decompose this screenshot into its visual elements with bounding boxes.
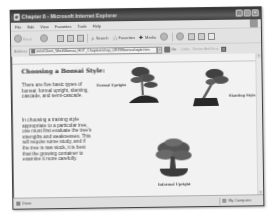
status-bar: Done My Computer [13,194,263,208]
bonsai-informal-upright-image [151,138,196,181]
vertical-scrollbar[interactable]: ▲ ▼ [255,53,263,195]
page-done-icon [16,202,20,206]
maximize-button[interactable]: □ [244,9,251,16]
address-input[interactable]: ents\Client_Work\Bonsai_HOT_Chapters\cha… [29,46,157,55]
close-button[interactable]: × [252,9,259,16]
messenger-icon[interactable] [208,32,215,39]
intro-paragraph: There are five basic types of bonsai: fo… [22,82,92,100]
status-text: Done [22,201,31,205]
minimize-button[interactable]: _ [236,10,243,17]
ie-icon: e [14,13,20,20]
back-label: Back [23,36,32,41]
links-button[interactable]: Links [181,47,189,51]
media-button[interactable]: ✦ Media [138,33,156,40]
address-url: ents\Client_Work\Bonsai_HOT_Chapters\cha… [36,48,149,54]
mail-icon[interactable] [176,32,184,40]
favorites-button[interactable]: ☆ Favorites [112,34,136,41]
norton-icon[interactable] [221,46,226,51]
back-arrow-icon [14,35,22,43]
zone-text: My Computer [228,198,251,202]
search-label: Search [96,35,109,40]
computer-icon [222,199,226,203]
bonsai-formal-upright-image [124,65,165,106]
informal-upright-label: Informal Upright [158,182,191,186]
toolbar-separator [87,33,88,42]
back-button[interactable]: Back [14,34,32,42]
menu-favorites[interactable]: Favorites [55,23,72,28]
page-heading: Choosing a Bonsai Style: [21,66,104,74]
stop-icon[interactable] [57,35,64,42]
window-controls: _ □ × [236,9,259,16]
forward-arrow-icon [40,34,48,42]
go-button[interactable]: Go [164,46,176,52]
scroll-up-arrow-icon[interactable]: ▲ [256,53,261,58]
refresh-icon[interactable] [67,34,74,41]
search-icon: ⌕ [91,34,95,41]
window-title: Chapter 8 - Microsoft Internet Explorer [22,12,117,19]
home-icon[interactable] [77,34,84,41]
menu-file[interactable]: File [15,24,22,29]
address-label: Address [14,50,27,54]
menu-edit[interactable]: Edit [27,24,34,29]
media-label: Media [145,34,156,39]
edit-icon[interactable] [198,33,205,40]
page-content: Choosing a Bonsai Style: There are five … [11,53,258,198]
star-icon: ☆ [112,34,118,41]
training-paragraph: In choosing a training style appropriate… [22,117,93,163]
forward-button[interactable] [40,34,49,42]
menu-tools[interactable]: Tools [77,23,86,28]
go-label: Go [171,47,176,51]
status-left: Done [16,201,31,205]
search-button[interactable]: ⌕ Search [91,34,109,41]
go-arrow-icon [164,47,170,53]
browser-window: e Chapter 8 - Microsoft Internet Explore… [10,6,265,209]
address-dropdown-button[interactable]: ▾ [157,46,162,53]
media-icon: ✦ [138,33,144,40]
slanting-style-label: Slanting Style [229,93,256,97]
bonsai-slanting-image [192,68,233,109]
formal-upright-label: Formal Upright [97,83,126,87]
norton-antivirus-button[interactable]: Norton AntiVirus [193,47,219,51]
favorites-label: Favorites [119,35,136,40]
windows-logo-icon [250,19,258,27]
page-icon [31,49,35,53]
print-icon[interactable] [188,33,195,40]
history-icon[interactable] [160,33,168,41]
status-separator [219,197,220,204]
menu-view[interactable]: View [40,24,49,29]
toolbar-separator [172,32,173,41]
status-zone: My Computer [219,197,251,204]
menu-help[interactable]: Help [93,23,101,28]
desktop-background: e Chapter 8 - Microsoft Internet Explore… [0,0,272,218]
